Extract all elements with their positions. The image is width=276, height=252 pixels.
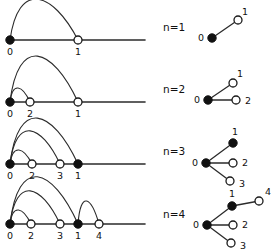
tree-node-label-0: 0: [198, 32, 204, 43]
linear-node-0: [6, 220, 14, 228]
arc-1: [10, 131, 60, 164]
tree-node-3: [227, 239, 235, 247]
linear-node-label-4: 4: [96, 230, 102, 241]
tree-edge-0: [212, 20, 238, 38]
arch-diagram: 021: [6, 56, 145, 118]
tree-node-1: [228, 202, 236, 210]
linear-node-label-0: 0: [7, 230, 13, 241]
tree-node-label-4: 4: [265, 186, 271, 197]
linear-node-label-2: 2: [29, 170, 35, 181]
arc-1: [10, 191, 60, 224]
tree-node-label-3: 3: [240, 240, 246, 251]
arch-diagram: 0231: [6, 118, 145, 180]
tree-node-1: [229, 79, 237, 87]
linear-node-label-3: 3: [57, 170, 63, 181]
rooted-tree: 01423: [193, 186, 271, 251]
figure-container: 01n=101021n=20120231n=3012302314n=401423: [0, 0, 276, 252]
linear-node-1: [74, 36, 82, 44]
linear-node-2: [28, 160, 36, 168]
tree-node-4: [255, 197, 263, 205]
diagram-row-n4: 02314n=401423: [6, 177, 271, 251]
tree-node-label-2: 2: [242, 157, 248, 168]
n-label: n=4: [163, 208, 185, 220]
linear-node-label-2: 2: [27, 108, 33, 119]
tree-node-1: [229, 139, 237, 147]
tree-node-0: [204, 96, 212, 104]
tree-node-1: [234, 16, 242, 24]
tree-node-3: [226, 177, 234, 185]
linear-node-3: [56, 160, 64, 168]
tree-node-0: [208, 34, 216, 42]
tree-node-label-0: 0: [194, 94, 200, 105]
rooted-tree: 0123: [192, 126, 248, 189]
n-label: n=3: [163, 145, 185, 157]
linear-node-2: [27, 220, 35, 228]
tree-node-label-2: 2: [242, 219, 248, 230]
n-label: n=2: [163, 83, 185, 95]
linear-node-label-1: 1: [75, 46, 81, 57]
tree-node-2: [229, 221, 237, 229]
tree-node-label-1: 1: [229, 188, 235, 199]
linear-node-1: [74, 220, 82, 228]
tree-node-2: [229, 159, 237, 167]
arc-2: [10, 177, 78, 224]
linear-node-label-0: 0: [7, 108, 13, 119]
arc-0: [10, 0, 78, 40]
linear-node-label-0: 0: [7, 170, 13, 181]
tree-node-label-1: 1: [237, 68, 243, 79]
n-label: n=1: [163, 21, 185, 33]
tree-edge-0: [207, 206, 232, 225]
linear-node-3: [56, 220, 64, 228]
linear-node-2: [26, 98, 34, 106]
linear-node-label-0: 0: [7, 46, 13, 57]
tree-edge-0: [206, 143, 233, 163]
arch-diagram-tree-bijection-figure: 01n=101021n=20120231n=3012302314n=401423: [0, 0, 276, 252]
linear-node-1: [74, 98, 82, 106]
linear-node-0: [6, 98, 14, 106]
tree-node-label-1: 1: [242, 6, 248, 17]
tree-node-label-2: 2: [245, 95, 251, 106]
linear-node-label-1: 1: [75, 230, 81, 241]
linear-node-0: [6, 36, 14, 44]
arc-1: [10, 56, 78, 102]
rooted-tree: 012: [194, 68, 251, 106]
linear-node-label-3: 3: [57, 230, 63, 241]
linear-node-label-1: 1: [75, 108, 81, 119]
tree-node-0: [202, 159, 210, 167]
arc-2: [10, 118, 78, 164]
linear-node-label-1: 1: [75, 170, 81, 181]
linear-node-label-2: 2: [28, 230, 34, 241]
linear-node-0: [6, 160, 14, 168]
tree-node-label-3: 3: [239, 178, 245, 189]
arch-diagram: 02314: [6, 177, 145, 241]
rows-group: 01n=101021n=20120231n=3012302314n=401423: [6, 0, 271, 250]
tree-node-label-1: 1: [232, 126, 238, 137]
rooted-tree: 01: [198, 6, 248, 43]
linear-node-4: [95, 220, 103, 228]
diagram-row-n2: 021n=2012: [6, 56, 251, 118]
tree-node-0: [203, 221, 211, 229]
linear-node-1: [74, 160, 82, 168]
arch-diagram: 01: [6, 0, 145, 57]
diagram-row-n1: 01n=101: [6, 0, 248, 57]
tree-node-2: [232, 96, 240, 104]
tree-node-label-0: 0: [192, 157, 198, 168]
tree-node-label-0: 0: [193, 219, 199, 230]
